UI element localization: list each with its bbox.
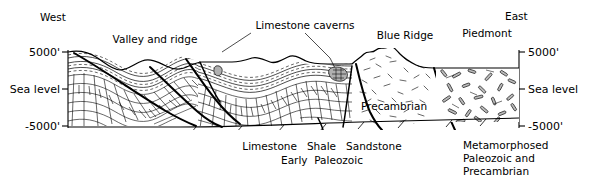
caption-metamorphic: Metamorphosed Paleozoic and Precambrian: [463, 139, 548, 177]
axis-left-label-minus-5000: -5000': [25, 120, 60, 133]
limestone-cavern-pocket: [329, 67, 348, 81]
axis-left: 5000' Sea level -5000': [10, 46, 68, 133]
caption-paleozoic-line-1: Limestone Shale Sandstone: [242, 140, 401, 152]
cross-section-canvas: West East Valley and ridge Limestone cav…: [0, 0, 590, 182]
leader-line-valley-ridge: [222, 33, 251, 52]
axis-right-label-5000: 5000': [528, 46, 559, 59]
leader-line-limestone-caverns: [305, 33, 337, 72]
caption-metamorphic-line-2: Paleozoic and: [463, 152, 535, 164]
axis-left-label-sea-level: Sea level: [10, 83, 60, 96]
section-body: Precambrian: [68, 44, 522, 134]
caption-paleozoic-units: Limestone Shale Sandstone Early Paleozoi…: [242, 140, 401, 166]
caption-paleozoic-line-2: Early Paleozoic: [281, 154, 363, 166]
label-east: East: [505, 10, 528, 22]
geologic-cross-section-figure: West East Valley and ridge Limestone cav…: [0, 0, 590, 182]
caption-metamorphic-line-3: Precambrian: [463, 165, 529, 177]
label-blue-ridge: Blue Ridge: [377, 29, 434, 41]
topographic-surface: [68, 46, 519, 70]
axis-right-label-minus-5000: -5000': [528, 120, 563, 133]
axis-left-label-5000: 5000': [29, 46, 60, 59]
label-piedmont: Piedmont: [462, 27, 512, 39]
label-valley-and-ridge: Valley and ridge: [113, 33, 198, 45]
label-limestone-caverns: Limestone caverns: [255, 19, 354, 31]
label-precambrian: Precambrian: [361, 100, 427, 112]
axis-right-label-sea-level: Sea level: [528, 83, 578, 96]
axis-right: 5000' Sea level -5000': [519, 46, 578, 133]
caption-metamorphic-line-1: Metamorphosed: [463, 139, 548, 151]
block-blue-ridge: [352, 44, 442, 130]
limestone-cavern-pocket-west: [214, 66, 222, 76]
label-west: West: [40, 11, 66, 23]
